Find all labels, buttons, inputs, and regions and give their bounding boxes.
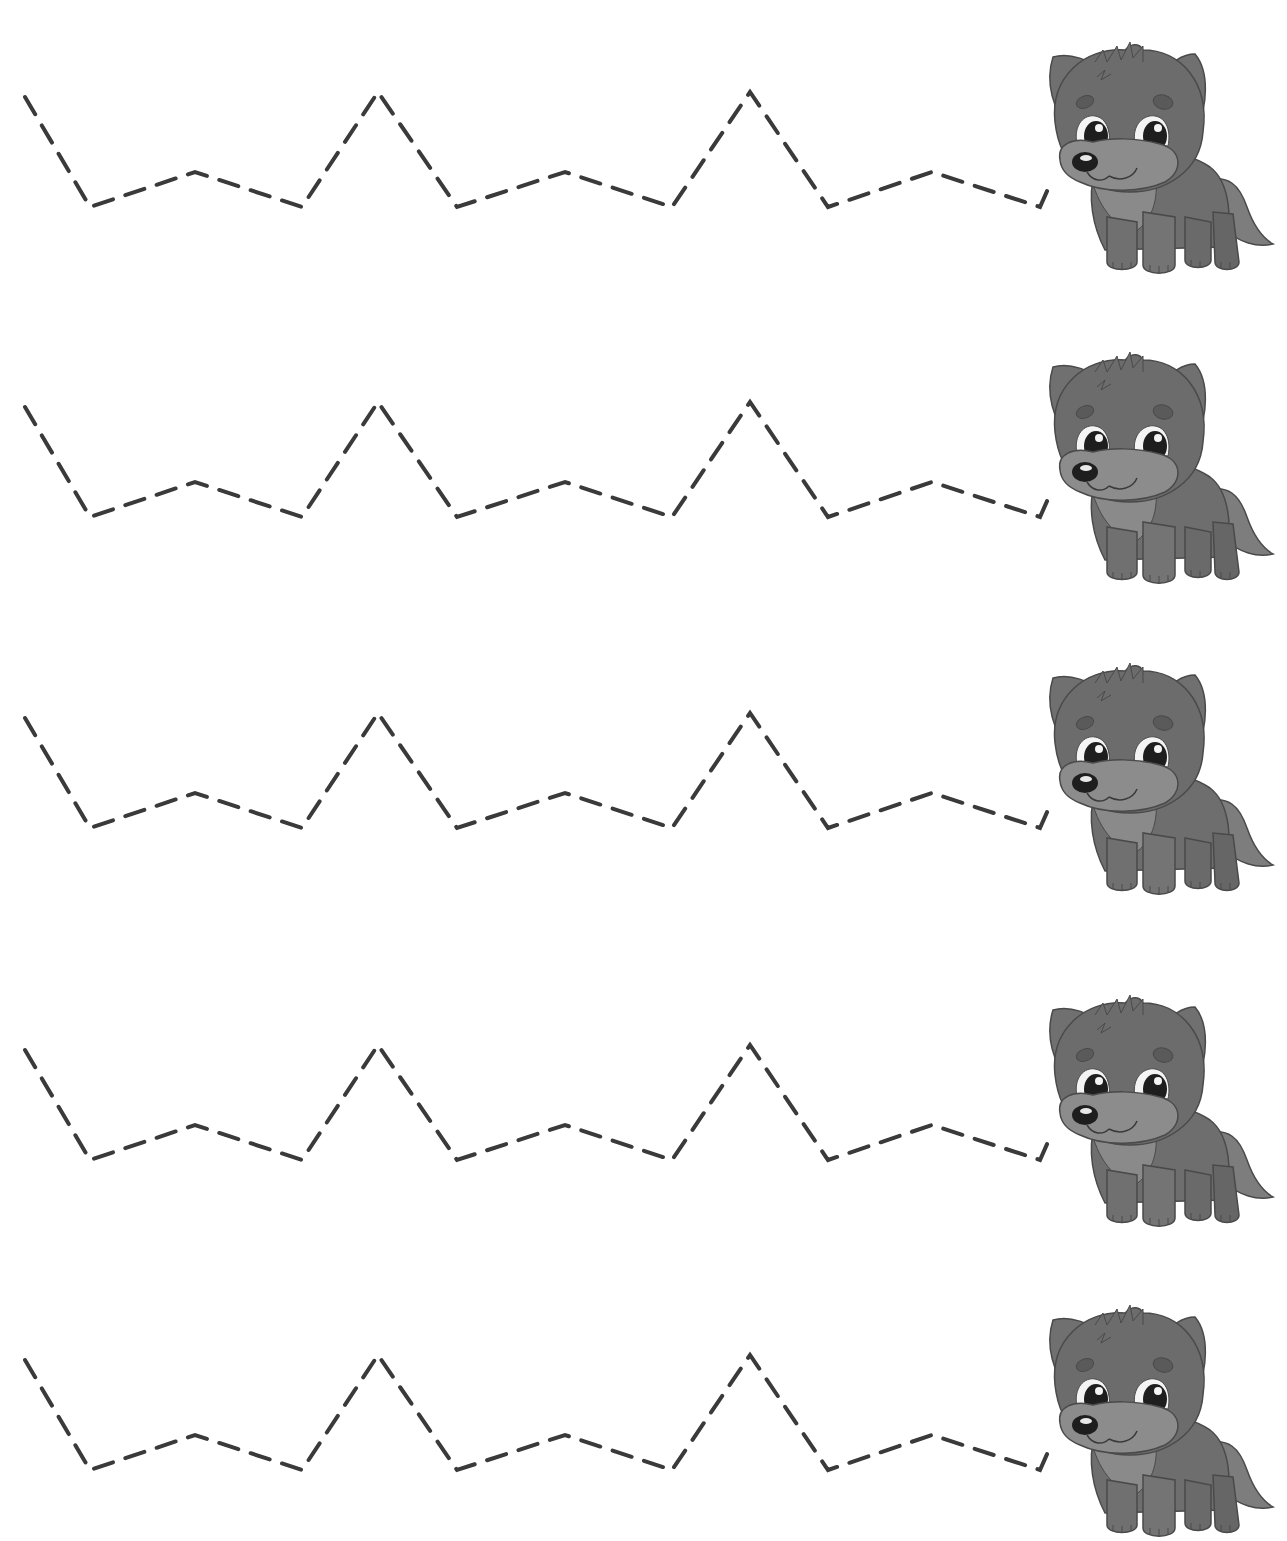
tracing-row-3 <box>0 713 1287 1024</box>
wolf-cub-icon <box>1025 653 1275 903</box>
tracing-row-5 <box>0 1355 1287 1541</box>
wolf-cub-icon <box>1025 32 1275 282</box>
wolf-cub-icon <box>1025 342 1275 592</box>
wolf-cub-icon <box>1025 985 1275 1235</box>
wolf-cub-icon <box>1025 1295 1275 1541</box>
